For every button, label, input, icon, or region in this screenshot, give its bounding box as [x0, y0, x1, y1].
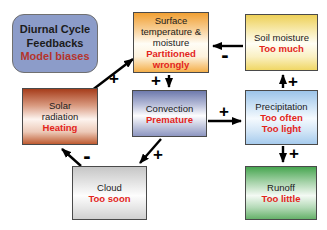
- node-bias-line: Premature: [146, 114, 193, 125]
- edge-sign-solar-to-surface: +: [109, 70, 119, 87]
- node-label-line: Cloud: [97, 182, 122, 193]
- node-bias-line: Too light: [262, 123, 301, 134]
- node-surface-temperature-moisture: Surface temperature & moisture Partition…: [133, 12, 209, 73]
- title-line: Diurnal Cycle: [20, 23, 90, 37]
- node-label-line: radiation: [42, 111, 78, 122]
- node-bias-line: Partitioned: [146, 48, 196, 59]
- node-label-line: Solar: [49, 100, 71, 111]
- node-label-line: Convection: [146, 103, 194, 114]
- node-bias-line: Too much: [259, 43, 304, 54]
- title-line: Feedbacks: [27, 37, 84, 51]
- node-solar-radiation: Solar radiation Heating: [22, 88, 98, 145]
- node-label-line: temperature &: [141, 26, 201, 37]
- node-label-line: Soil moisture: [254, 32, 309, 43]
- node-convection: Convection Premature: [132, 90, 207, 137]
- node-bias-line: Heating: [43, 122, 78, 133]
- node-soil-moisture: Soil moisture Too much: [245, 14, 318, 71]
- node-label-line: Runoff: [267, 182, 295, 193]
- edge-sign-cloud-to-solar: -: [83, 149, 90, 163]
- node-bias-line: wrongly: [153, 59, 189, 70]
- title-box: Diurnal Cycle Feedbacks Model biases: [12, 14, 98, 73]
- arrow-cloud-to-solar: [62, 149, 81, 166]
- diagram-canvas: Diurnal Cycle Feedbacks Model biases Sur…: [0, 0, 327, 230]
- node-bias-line: Too soon: [88, 193, 130, 204]
- node-precipitation: Precipitation Too often Too light: [245, 90, 318, 145]
- edge-sign-precipitation-to-runoff: +: [289, 145, 299, 162]
- node-label-line: Surface: [155, 15, 188, 26]
- node-bias-line: Too little: [262, 193, 301, 204]
- edge-sign-soil-to-surface: -: [221, 48, 228, 62]
- node-cloud: Cloud Too soon: [72, 166, 147, 220]
- edge-sign-convection-to-cloud: +: [153, 146, 163, 163]
- node-bias-line: Too often: [260, 112, 303, 123]
- edge-sign-precipitation-to-soil: +: [288, 73, 298, 90]
- edge-sign-surface-to-convection: +: [151, 72, 161, 89]
- node-label-line: moisture: [153, 37, 189, 48]
- node-label-line: Precipitation: [255, 101, 307, 112]
- edge-sign-convection-to-precipitation: +: [219, 103, 229, 120]
- node-runoff: Runoff Too little: [245, 166, 317, 220]
- title-bias-line: Model biases: [20, 50, 89, 64]
